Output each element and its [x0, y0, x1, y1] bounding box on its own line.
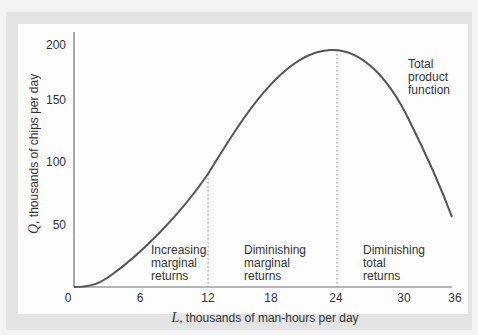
x-tick-label: 30 [397, 291, 411, 305]
x-tick-label: 24 [329, 291, 343, 305]
x-tick-label: 18 [264, 291, 278, 305]
y-tick-label: 200 [46, 38, 66, 52]
x-axis-title: L, thousands of man-hours per day [170, 310, 358, 325]
y-tick-label: 100 [46, 155, 66, 169]
x-tick-label: 12 [201, 291, 215, 305]
x-tick-label: 0 [65, 291, 72, 305]
label-diminishing-total-returns: Diminishingtotalreturns [363, 243, 425, 283]
label-increasing-marginal-returns: Increasingmarginalreturns [151, 243, 206, 283]
y-tick-label: 150 [46, 93, 66, 107]
label-diminishing-marginal-returns: Diminishingmarginalreturns [244, 243, 306, 283]
y-tick-label: 50 [53, 218, 67, 232]
x-tick-label: 6 [137, 291, 144, 305]
y-axis-title: Q, thousands of chips per day [26, 74, 41, 234]
label-total-product-function: Totalproductfunction [408, 57, 450, 97]
x-tick-label: 36 [448, 291, 462, 305]
total-product-chart: 200 150 100 50 0 6 12 18 24 30 36 L, tho… [0, 0, 478, 335]
